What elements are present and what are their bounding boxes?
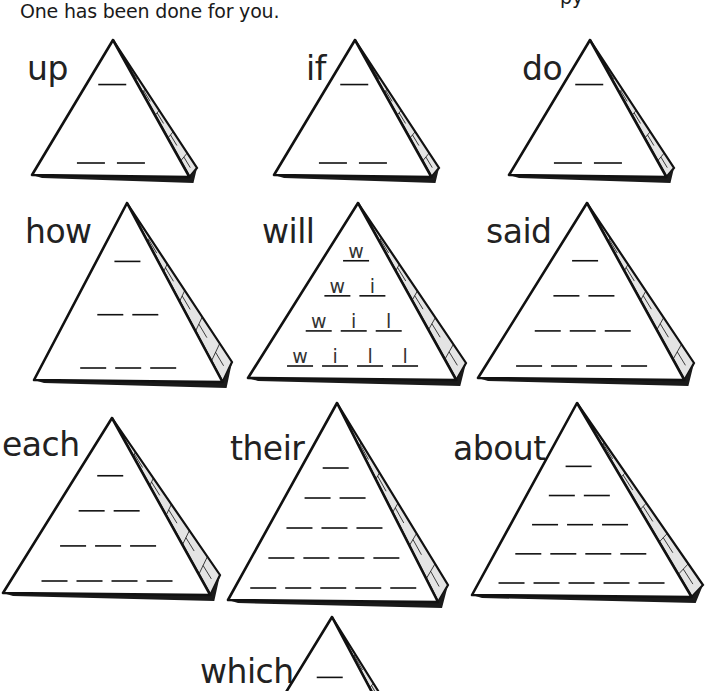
pyramid-which (0, 0, 705, 681)
